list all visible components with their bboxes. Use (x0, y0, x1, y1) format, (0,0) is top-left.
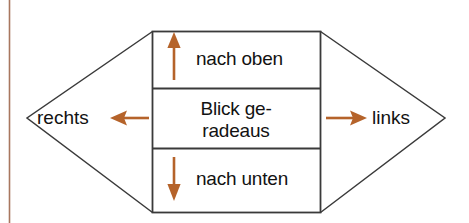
cell-label-nach-unten: nach unten (196, 168, 316, 190)
side-label-links: links (372, 107, 442, 129)
side-label-rechts: rechts (37, 107, 117, 129)
cell-label-nach-oben: nach oben (196, 48, 316, 70)
cell-label-blick-geradeaus: Blick ge- radeaus (160, 98, 312, 142)
diagram-canvas: nach oben Blick ge- radeaus nach unten r… (0, 0, 469, 223)
